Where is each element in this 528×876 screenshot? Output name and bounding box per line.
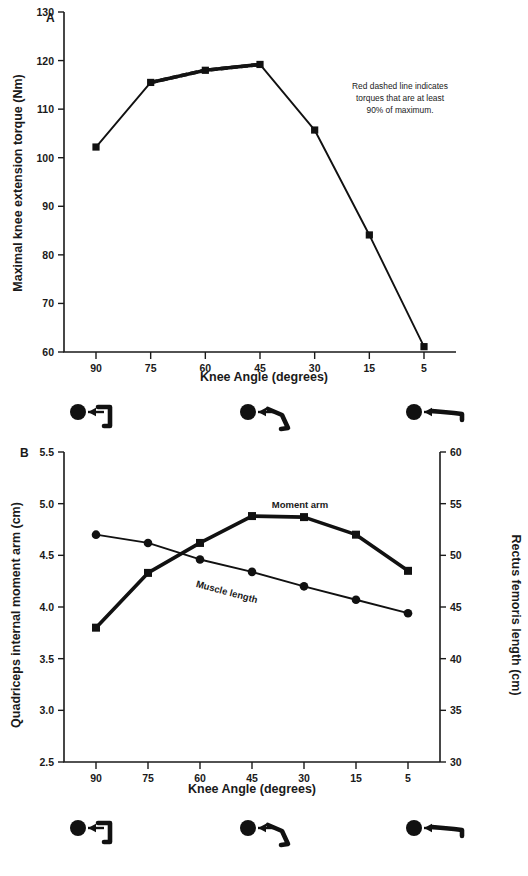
panel-b-x-axis-title: Knee Angle (degrees)	[188, 782, 316, 796]
panel-a-y-tick-label: 60	[42, 346, 54, 358]
panel-a-data-point	[420, 343, 427, 350]
panel-b-muscle-length-point	[404, 609, 413, 618]
panel-b-y-left-tick-label: 4.5	[39, 549, 54, 561]
leg-flexed-90-icon	[70, 404, 110, 426]
force-arrow-head-icon	[258, 824, 266, 832]
hip-circle-icon	[70, 820, 86, 836]
panel-b-muscle-length-point	[248, 568, 257, 577]
annotation-line-1: Red dashed line indicates	[352, 81, 448, 91]
leg-segment-icon	[268, 825, 288, 845]
panel-b-y-left-tick-label: 5.5	[39, 446, 54, 458]
panel-b-y-left-tick-label: 3.5	[39, 653, 54, 665]
annotation-line-2: torques that are at least	[356, 93, 445, 103]
panel-a-chart: 607080901001101201309075604530155 A Knee…	[0, 0, 528, 440]
leg-segment-icon	[432, 827, 462, 836]
force-arrow-head-icon	[88, 408, 96, 416]
panel-b-muscle-length-point	[352, 595, 361, 604]
panel-b-moment-arm-point	[248, 512, 256, 520]
panel-a-letter: A	[46, 11, 55, 25]
hip-circle-icon	[70, 404, 86, 420]
figure-root: 607080901001101201309075604530155 A Knee…	[0, 0, 528, 876]
panel-b-y-right-tick-label: 55	[450, 498, 462, 510]
panel-a-y-tick-label: 80	[42, 249, 54, 261]
annotation-line-3: 90% of maximum.	[366, 105, 433, 115]
panel-a-x-tick-label: 15	[363, 362, 375, 374]
hip-circle-icon	[406, 820, 422, 836]
panel-b-moment-arm-point	[404, 567, 412, 575]
panel-b-y-right-tick-label: 40	[450, 653, 462, 665]
panel-b-moment-arm-point	[300, 513, 308, 521]
panel-a-data-point	[147, 79, 154, 86]
panel-a-x-tick-label: 75	[145, 362, 157, 374]
panel-b-y-left-tick-label: 3.0	[39, 704, 54, 716]
panel-a-data-point	[92, 143, 99, 150]
series-label-moment-arm: Moment arm	[272, 499, 328, 510]
panel-a-y-tick-label: 110	[37, 103, 54, 115]
panel-a-x-axis-title: Knee Angle (degrees)	[200, 370, 328, 384]
panel-b-y-axis-right-title: Rectus femoris length (cm)	[509, 534, 523, 695]
panel-b-y-right-tick-label: 50	[450, 549, 462, 561]
panel-a-y-tick-label: 120	[36, 55, 54, 67]
panel-a-data-point	[311, 126, 318, 133]
leg-segment-icon	[98, 823, 110, 842]
hip-circle-icon	[240, 404, 256, 420]
panel-b-y-right-tick-label: 30	[450, 756, 462, 768]
panel-a-x-tick-label: 5	[421, 362, 427, 374]
panel-b-x-tick-label: 5	[405, 772, 411, 784]
panel-a-data-point	[202, 67, 209, 74]
panel-b-muscle-length-point	[196, 555, 205, 564]
leg-flexed-45-icon	[240, 820, 288, 845]
panel-b-muscle-length-point	[92, 530, 101, 539]
panel-b-moment-arm-point	[352, 531, 360, 539]
leg-segment-icon	[98, 407, 110, 426]
panel-a-y-tick-label: 90	[42, 200, 54, 212]
leg-segment-icon	[432, 411, 462, 420]
leg-segment-icon	[268, 409, 288, 429]
panel-a-data-point	[366, 231, 373, 238]
force-arrow-head-icon	[88, 824, 96, 832]
leg-extended-5-icon	[406, 404, 462, 420]
panel-b-x-tick-label: 75	[142, 772, 154, 784]
panel-b-x-tick-label: 90	[90, 772, 102, 784]
panel-a-x-tick-label: 90	[90, 362, 102, 374]
hip-circle-icon	[406, 404, 422, 420]
leg-extended-5-icon	[406, 820, 462, 836]
panel-b-y-axis-left-title: Quadriceps internal moment arm (cm)	[9, 502, 23, 728]
panel-b-moment-arm-point	[144, 569, 152, 577]
panel-b-y-left-tick-label: 5.0	[39, 498, 54, 510]
panel-b-letter: B	[20, 446, 29, 460]
force-arrow-head-icon	[258, 408, 266, 416]
hip-circle-icon	[240, 820, 256, 836]
panel-b-chart: 2.53.03.54.04.55.05.53035404550556090756…	[0, 440, 528, 876]
panel-b-muscle-length-point	[300, 582, 309, 591]
panel-b-x-tick-label: 15	[350, 772, 362, 784]
panel-b-moment-arm-point	[196, 539, 204, 547]
panel-a-y-axis-title: Maximal knee extension torque (Nm)	[11, 74, 25, 291]
panel-b-y-right-tick-label: 45	[450, 601, 462, 613]
panel-b-moment-arm-point	[92, 624, 100, 632]
panel-b-y-left-tick-label: 2.5	[39, 756, 54, 768]
panel-a-y-tick-label: 100	[36, 152, 54, 164]
panel-b-y-left-tick-label: 4.0	[39, 601, 54, 613]
panel-b-y-right-tick-label: 35	[450, 704, 462, 716]
panel-b-y-right-tick-label: 60	[450, 446, 462, 458]
panel-a-data-point	[256, 61, 263, 68]
leg-flexed-90-icon	[70, 820, 110, 842]
panel-a-y-tick-label: 70	[42, 297, 54, 309]
series-label-muscle-length: Muscle length	[195, 578, 259, 605]
panel-b-muscle-length-point	[144, 539, 153, 548]
leg-flexed-45-icon	[240, 404, 288, 429]
